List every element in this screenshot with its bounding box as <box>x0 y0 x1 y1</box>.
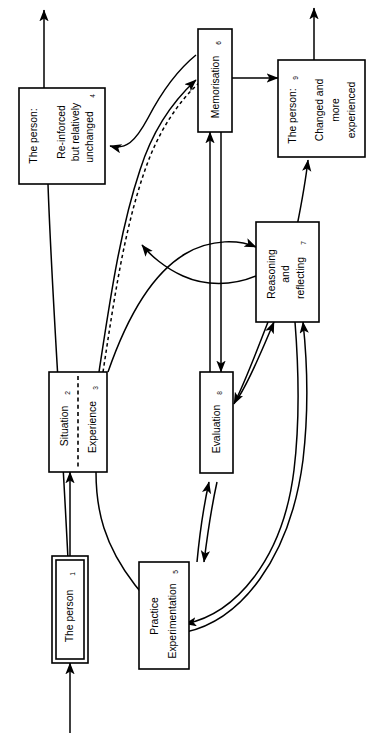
node-person-changed-title: The person: <box>287 88 298 143</box>
node-person-start-index: 1 <box>69 572 76 576</box>
node-memorisation[interactable]: Memorisation 6 <box>198 29 232 132</box>
node-reasoning-line3: reflecting <box>295 257 306 299</box>
node-person-unchanged-line1: Re-inforced <box>56 105 67 159</box>
node-situation-index: 2 <box>64 391 71 395</box>
node-person-unchanged-line3: unchanged <box>84 111 95 163</box>
node-practice-border <box>139 562 189 669</box>
node-person-changed-index: 9 <box>292 76 299 80</box>
learning-cycle-diagram: The person 1 Situation 2 Experience 3 Th… <box>0 0 385 736</box>
node-memorisation-label: Memorisation <box>210 56 221 119</box>
node-reasoning-reflecting[interactable]: Reasoning and reflecting 7 <box>256 222 319 322</box>
edge-reasoning-to-person-changed <box>297 160 308 226</box>
flow-diagram-canvas: The person 1 Situation 2 Experience 3 Th… <box>0 0 385 736</box>
node-practice-line1: Practice <box>149 597 160 635</box>
edge-memorisation-to-experience <box>110 55 196 147</box>
node-situation-experience[interactable]: Situation 2 Experience 3 <box>49 372 107 472</box>
node-evaluation-label: Evaluation <box>211 405 222 454</box>
node-reasoning-line2: and <box>280 265 291 283</box>
node-reasoning-line1: Reasoning <box>266 249 277 299</box>
edge-reasoning-to-experience <box>142 245 256 284</box>
node-practice-index: 5 <box>172 570 179 574</box>
edge-experience-to-reasoning <box>108 242 256 372</box>
node-situation-label: Situation <box>59 406 70 447</box>
node-practice-experimentation[interactable]: Practice Experimentation 5 <box>139 562 189 669</box>
node-person-changed[interactable]: The person: 9 Changed and more experienc… <box>278 60 365 157</box>
node-person-changed-line3: experienced <box>346 81 357 138</box>
edge-experience-to-memorisation <box>99 80 196 372</box>
edge-experience-to-memorisation-dashed <box>103 82 200 372</box>
node-person-start[interactable]: The person 1 <box>52 556 88 663</box>
node-memorisation-index: 6 <box>215 41 222 45</box>
node-evaluation[interactable]: Evaluation 8 <box>200 372 233 473</box>
node-experience-index: 3 <box>92 386 99 390</box>
node-person-changed-line2: more <box>330 98 341 122</box>
node-evaluation-index: 8 <box>216 391 223 395</box>
node-person-start-label: The person <box>64 589 75 642</box>
edge-practice-to-evaluation <box>197 482 209 562</box>
edge-reasoning-to-evaluation <box>234 322 268 404</box>
node-person-unchanged-title: The person: <box>28 108 39 163</box>
node-person-changed-line1: Changed and <box>314 79 325 142</box>
node-experience-label: Experience <box>87 401 98 453</box>
node-practice-line2: Experimentation <box>167 583 178 658</box>
node-reasoning-index: 7 <box>300 241 307 245</box>
edge-evaluation-to-reasoning <box>238 322 274 398</box>
node-person-unchanged-index: 4 <box>89 94 96 98</box>
node-person-unchanged-line2: but relatively <box>70 102 81 161</box>
node-person-unchanged[interactable]: The person: Re-inforced but relatively u… <box>19 88 105 184</box>
